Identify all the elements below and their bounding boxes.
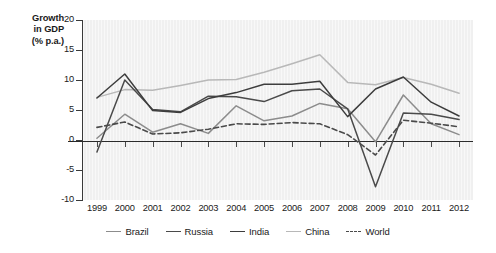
legend-swatch-icon bbox=[346, 231, 361, 232]
x-tick-mark bbox=[208, 142, 209, 147]
x-tick-mark bbox=[236, 142, 237, 147]
y-tick-label: 20 bbox=[48, 14, 74, 24]
legend-swatch-icon bbox=[166, 231, 181, 232]
legend-label: China bbox=[305, 226, 329, 237]
legend-item-world[interactable]: World bbox=[346, 226, 389, 237]
y-tick-label: -10 bbox=[48, 194, 74, 204]
y-tick-label: 5 bbox=[48, 104, 74, 114]
y-tick-mark bbox=[76, 170, 82, 171]
x-tick-mark bbox=[292, 142, 293, 147]
legend-label: India bbox=[249, 226, 269, 237]
x-tick-mark bbox=[348, 142, 349, 147]
y-tick-label: 10 bbox=[48, 74, 74, 84]
x-tick-label: 2012 bbox=[442, 203, 476, 213]
x-tick-mark bbox=[459, 142, 460, 147]
legend-swatch-icon bbox=[230, 231, 245, 232]
legend-label: Russia bbox=[185, 226, 213, 237]
x-tick-mark bbox=[376, 142, 377, 147]
zero-baseline bbox=[68, 141, 473, 142]
x-tick-mark bbox=[431, 142, 432, 147]
y-tick-label: 15 bbox=[48, 44, 74, 54]
legend-item-china[interactable]: China bbox=[286, 226, 329, 237]
y-tick-mark bbox=[76, 140, 82, 141]
y-tick-mark bbox=[76, 80, 82, 81]
y-tick-mark bbox=[76, 110, 82, 111]
y-axis-line bbox=[82, 20, 83, 201]
x-tick-mark bbox=[97, 142, 98, 147]
chart-legend: BrazilRussiaIndiaChinaWorld bbox=[0, 226, 496, 237]
y-tick-mark bbox=[76, 200, 82, 201]
legend-item-brazil[interactable]: Brazil bbox=[106, 226, 148, 237]
x-tick-mark bbox=[181, 142, 182, 147]
y-tick-mark bbox=[76, 20, 82, 21]
y-tick-label: 0 bbox=[48, 134, 74, 144]
x-tick-mark bbox=[320, 142, 321, 147]
y-axis-title-line-2: in GDP bbox=[4, 24, 64, 35]
legend-label: Brazil bbox=[125, 226, 148, 237]
legend-label: World bbox=[365, 226, 389, 237]
legend-swatch-icon bbox=[286, 231, 301, 232]
legend-item-india[interactable]: India bbox=[230, 226, 269, 237]
x-tick-mark bbox=[403, 142, 404, 147]
x-tick-mark bbox=[125, 142, 126, 147]
gdp-growth-line-chart: Growth in GDP (% p.a.) 20151050-5-10 199… bbox=[0, 0, 496, 253]
y-tick-mark bbox=[76, 50, 82, 51]
x-tick-mark bbox=[264, 142, 265, 147]
legend-item-russia[interactable]: Russia bbox=[166, 226, 213, 237]
y-tick-label: -5 bbox=[48, 164, 74, 174]
legend-swatch-icon bbox=[106, 231, 121, 232]
plot-area bbox=[83, 20, 473, 200]
x-tick-mark bbox=[153, 142, 154, 147]
